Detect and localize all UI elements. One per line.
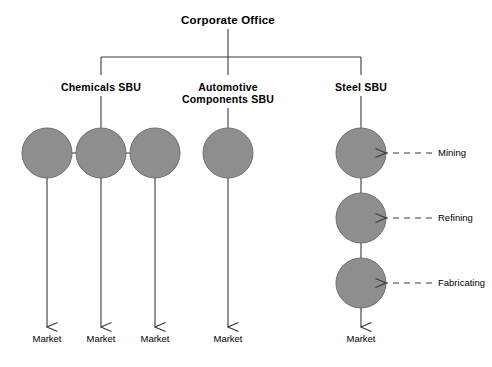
market-label-chemicals-1: Market [32, 334, 61, 345]
stage-label-refining: Refining [438, 213, 473, 224]
corporate-office-connector [101, 29, 361, 75]
chemicals-node-3 [130, 128, 180, 178]
sbu-label-automotive-line2: Components SBU [182, 94, 274, 106]
chemicals-node-1 [22, 128, 72, 178]
stage-callout-arrows [386, 153, 432, 283]
page-title: Corporate Office [181, 14, 275, 27]
market-label-automotive: Market [213, 334, 242, 345]
steel-node-refining [336, 193, 386, 243]
sbu-label-steel: Steel SBU [335, 82, 387, 94]
stage-label-mining: Mining [438, 148, 466, 159]
market-label-steel: Market [346, 334, 375, 345]
steel-node-mining [336, 128, 386, 178]
sbu-label-automotive: Automotive Components SBU [182, 82, 274, 106]
org-value-chain-diagram: Corporate Office Chemicals SBU Automotiv… [0, 0, 492, 367]
sbu-label-chemicals: Chemicals SBU [61, 82, 141, 94]
automotive-node-1 [203, 128, 253, 178]
steel-node-fabricating [336, 258, 386, 308]
market-arrows [47, 178, 361, 327]
stage-label-fabricating: Fabricating [438, 278, 485, 289]
market-label-chemicals-2: Market [86, 334, 115, 345]
value-chain-nodes [22, 128, 386, 308]
sbu-label-automotive-line1: Automotive [182, 82, 274, 94]
chemicals-node-2 [76, 128, 126, 178]
market-label-chemicals-3: Market [140, 334, 169, 345]
diagram-canvas [0, 0, 492, 367]
